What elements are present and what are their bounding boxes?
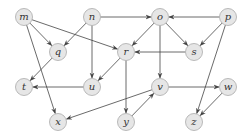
node-label: y	[122, 116, 129, 127]
node-u: u	[84, 79, 101, 96]
edge-v-to-x	[67, 90, 152, 119]
node-label: s	[191, 46, 196, 57]
node-y: y	[118, 114, 135, 131]
edge-m-to-q	[30, 23, 52, 45]
node-label: m	[19, 11, 28, 22]
edge-o-to-r	[132, 23, 154, 45]
node-label: o	[157, 11, 163, 22]
node-label: q	[55, 46, 61, 57]
node-q: q	[50, 44, 67, 61]
edge-n-to-q	[64, 23, 86, 45]
node-p: p	[220, 9, 237, 26]
node-x: x	[50, 114, 67, 131]
edge-q-to-t	[30, 58, 52, 80]
node-label: z	[190, 116, 197, 127]
node-label: u	[89, 81, 95, 92]
node-z: z	[186, 114, 203, 131]
edge-p-to-z	[197, 25, 226, 113]
node-label: x	[55, 116, 61, 127]
node-v: v	[152, 79, 169, 96]
node-label: v	[157, 81, 163, 92]
directed-graph: mnopqrstuvwxyz	[0, 0, 248, 137]
edge-r-to-u	[98, 58, 120, 80]
edge-o-to-s	[166, 23, 188, 45]
edge-p-to-s	[200, 23, 222, 45]
node-o: o	[152, 9, 169, 26]
node-label: n	[89, 11, 95, 22]
node-label: p	[225, 11, 232, 22]
node-r: r	[118, 44, 135, 61]
node-label: w	[224, 81, 233, 92]
edge-w-to-z	[200, 93, 222, 115]
node-w: w	[220, 79, 237, 96]
node-m: m	[16, 9, 33, 26]
node-s: s	[186, 44, 203, 61]
node-n: n	[84, 9, 101, 26]
node-t: t	[16, 79, 33, 96]
edge-y-to-v	[132, 93, 154, 115]
edges-layer	[27, 17, 226, 119]
